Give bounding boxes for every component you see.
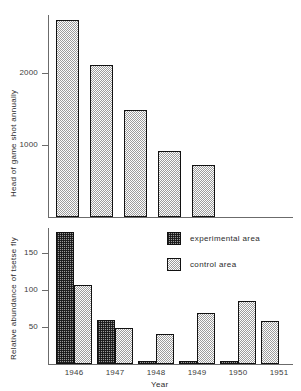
bottom-ytick-label-100: 100 [8, 286, 38, 294]
legend-item-experimental: experimental area [167, 232, 260, 245]
bottom-bar-control-1947 [115, 328, 133, 364]
bottom-bar-experimental-1949 [179, 361, 197, 364]
top-bar-1949 [158, 151, 181, 217]
top-ytick-2000 [42, 73, 49, 74]
bottom-ytick-label-150: 150 [8, 249, 38, 257]
bottom-bar-control-1949 [197, 313, 215, 364]
legend-swatch-control-icon [167, 258, 181, 271]
xlabel-1947: 1947 [95, 369, 135, 377]
bottom-x-axis-title: Year [151, 381, 168, 389]
xlabel-1946: 1946 [54, 369, 94, 377]
top-ytick-label-1000: 1000 [4, 141, 38, 149]
figure: Head of game shot annually 2000 1000 exp… [0, 0, 301, 391]
bottom-bar-control-1950 [238, 301, 256, 364]
top-bar-1946 [56, 20, 79, 217]
top-bar-1950 [192, 165, 215, 217]
bottom-bar-control-1948 [156, 334, 174, 364]
xlabel-1950: 1950 [218, 369, 258, 377]
bottom-bar-experimental-1950 [220, 361, 238, 364]
bottom-bar-control-1946 [74, 285, 92, 364]
bottom-bar-experimental-1947 [97, 320, 115, 364]
top-x-axis-line [48, 217, 293, 218]
bottom-bar-experimental-1948 [138, 361, 156, 364]
top-bar-1947 [90, 65, 113, 217]
legend-swatch-experimental-icon [167, 232, 181, 245]
top-ytick-label-2000: 2000 [4, 69, 38, 77]
legend-label-experimental: experimental area [190, 235, 260, 243]
top-ytick-1000 [42, 145, 49, 146]
bottom-ytick-150 [42, 253, 49, 254]
xlabel-1948: 1948 [136, 369, 176, 377]
legend-label-control: control area [190, 261, 236, 269]
bottom-ytick-label-50: 50 [8, 323, 38, 331]
legend-item-control: control area [167, 258, 236, 271]
bottom-x-axis-line [48, 364, 293, 365]
top-bar-1948 [124, 110, 147, 217]
bottom-bar-experimental-1946 [56, 232, 74, 364]
xlabel-1949: 1949 [177, 369, 217, 377]
xlabel-1951: 1951 [259, 369, 299, 377]
bottom-ytick-50 [42, 327, 49, 328]
bottom-y-axis-line [48, 228, 49, 365]
bottom-bar-control-1951 [261, 321, 279, 364]
bottom-ytick-100 [42, 290, 49, 291]
top-y-axis-line [48, 15, 49, 218]
